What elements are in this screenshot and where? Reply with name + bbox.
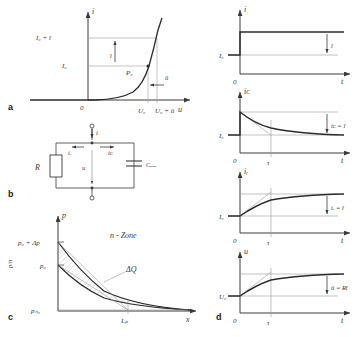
d2-y-axis-label: iᴄ — [244, 87, 250, 96]
panel-a-ihat-label: î — [110, 52, 113, 59]
d1-origin-label: 0 — [233, 78, 237, 86]
d4-tau-label: τ — [267, 319, 270, 327]
panel-a-y-axis-label: i — [92, 7, 94, 16]
panel-c-side-label: p/n — [6, 260, 13, 269]
panel-a-operating-point — [147, 65, 150, 68]
panel-a-letter: a — [8, 102, 14, 112]
d3-amplitude-label: iᵣ = î — [331, 204, 345, 211]
panel-b-capacitor-label: Cₑᵢₑₑ — [146, 161, 157, 168]
d4-amplitude-label: û = Rî — [331, 284, 349, 291]
panel-c-tangent-upper — [58, 242, 128, 310]
d2-origin-label: 0 — [233, 157, 237, 165]
panel-b-voltage-label: u — [82, 164, 86, 171]
panel-d-plot-resistor-current: iᵣ t 0 I₀ τ iᵣ = î — [218, 167, 350, 247]
d2-y-tick: I₀ — [218, 132, 224, 140]
panel-d: d i t 0 I₀ î iᴄ t 0 I₀ τ — [216, 5, 350, 327]
d1-x-axis-label: t — [341, 77, 344, 86]
d3-y-tick: I₀ — [218, 213, 224, 221]
d3-tau-label: τ — [267, 239, 270, 247]
panel-a-y-tick-0: I₀ + î — [35, 34, 52, 42]
d4-y-tick: U₀ — [219, 293, 227, 301]
figure-container: a i u 0 I₀ + î I₀ U₀ U₀ + û P₀ î û b — [0, 0, 359, 337]
panel-b-node-top — [91, 142, 94, 145]
panel-c: c p x p/n n - Zone p₀ + Δp p₀ pₙ₀ Lₚ ΔQ — [6, 211, 196, 325]
panel-b-terminal-top — [90, 124, 94, 128]
panel-a-x-tick-1: U₀ + û — [155, 107, 175, 115]
panel-c-y-axis-label: p — [61, 211, 66, 220]
panel-a: a i u 0 I₀ + î I₀ U₀ U₀ + û P₀ î û — [8, 7, 190, 115]
d3-x-axis-label: t — [341, 236, 344, 245]
panel-c-y-tick-2: pₙ₀ — [30, 307, 41, 315]
d2-x-axis-label: t — [341, 156, 344, 165]
d1-y-axis-label: i — [244, 5, 246, 14]
panel-c-charge-leader — [104, 272, 125, 282]
d1-y-tick: I₀ — [218, 52, 224, 60]
panel-c-y-tick-0: p₀ + Δp — [17, 239, 40, 247]
panel-a-point-label: P₀ — [125, 69, 133, 77]
panel-b-resistor-label: R — [34, 163, 40, 172]
panel-d-plot-voltage: u t 0 U₀ τ û = Rî — [219, 247, 350, 327]
panel-a-uhat-label: û — [165, 74, 169, 81]
panel-c-zone-label: n - Zone — [110, 231, 137, 240]
panel-b-capacitor-current-label: iᴄ — [108, 149, 114, 156]
panel-a-diode-curve — [30, 18, 162, 100]
panel-c-y-tick-1: p₀ — [39, 262, 47, 270]
panel-d-plot-capacitor-current: iᴄ t 0 I₀ τ iᴄ = î — [218, 87, 350, 167]
d3-y-axis-label: iᵣ — [244, 167, 248, 176]
panel-b-resistor-current-label: iᵣ — [68, 149, 72, 156]
d4-y-axis-label: u — [244, 247, 248, 256]
panel-d-plot-current-step: i t 0 I₀ î — [218, 5, 350, 86]
d2-tau-label: τ — [267, 159, 270, 167]
panel-c-x-tick-0: Lₚ — [120, 317, 128, 325]
panel-d-letter: d — [216, 312, 222, 322]
technical-figure: a i u 0 I₀ + î I₀ U₀ U₀ + û P₀ î û b — [0, 0, 359, 337]
panel-b-terminal-bottom — [90, 196, 94, 200]
panel-c-tangent-lower — [58, 265, 128, 310]
panel-a-origin-label: 0 — [80, 104, 84, 112]
d3-origin-label: 0 — [233, 237, 237, 245]
d1-amplitude-label: î — [331, 42, 334, 49]
panel-a-x-axis-label: u — [178, 105, 182, 114]
panel-c-letter: c — [8, 312, 13, 322]
panel-a-y-tick-1: I₀ — [61, 62, 67, 70]
panel-b-letter: b — [8, 189, 14, 199]
d4-origin-label: 0 — [233, 317, 237, 325]
panel-b-total-current-label: i — [96, 129, 98, 136]
panel-c-x-axis-label: x — [185, 315, 190, 324]
panel-b-node-bottom — [91, 187, 94, 190]
panel-b: b i iᵣ iᴄ R Cₑᵢₑₑ u — [8, 124, 157, 200]
panel-b-resistor-symbol — [50, 155, 62, 177]
d4-x-axis-label: t — [341, 316, 344, 325]
d2-amplitude-label: iᴄ = î — [331, 122, 346, 129]
panel-a-x-tick-0: U₀ — [138, 107, 146, 115]
panel-c-charge-label: ΔQ — [125, 265, 137, 274]
